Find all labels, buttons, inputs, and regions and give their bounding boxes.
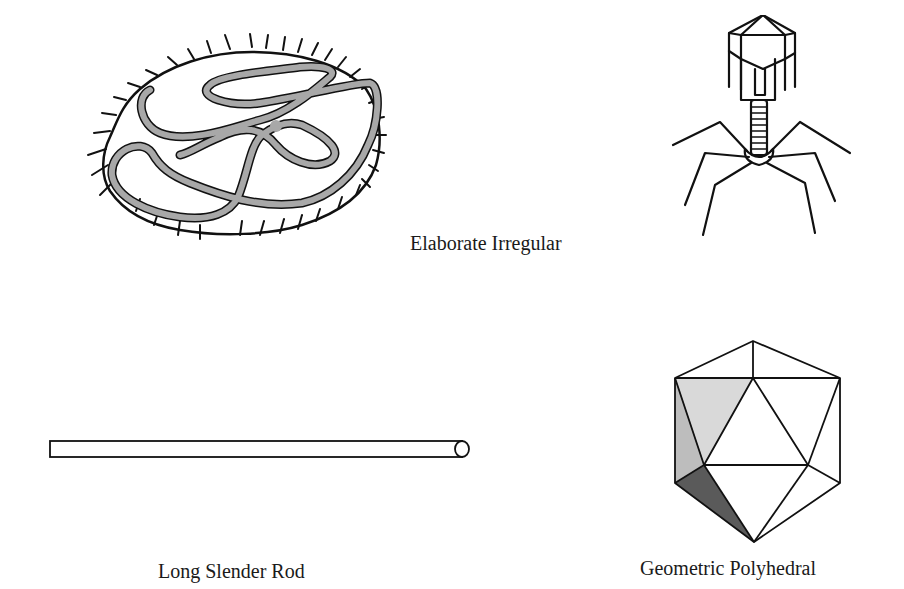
bacteriophage-figure (665, 15, 865, 240)
caption-elaborate-irregular: Elaborate Irregular (410, 232, 562, 255)
long-slender-rod-figure (48, 438, 474, 462)
bacteriophage-icon (665, 15, 865, 240)
caption-long-slender-rod: Long Slender Rod (158, 560, 305, 583)
rod-virus-icon (48, 438, 474, 462)
geometric-polyhedral-figure (670, 335, 850, 550)
caption-geometric-polyhedral: Geometric Polyhedral (640, 557, 816, 580)
elaborate-irregular-virus-figure (80, 25, 420, 255)
enveloped-virus-icon (80, 25, 420, 255)
icosahedron-icon (670, 335, 850, 550)
